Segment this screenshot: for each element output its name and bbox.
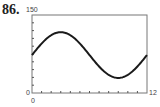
plot	[0, 0, 160, 107]
sine-curve	[32, 32, 147, 78]
